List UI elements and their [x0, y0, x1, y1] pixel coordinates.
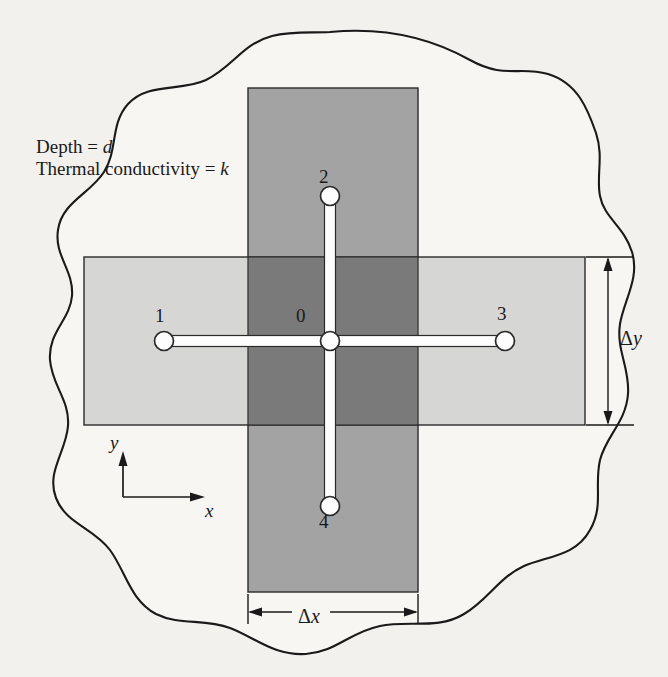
connector-bar-0-3 — [330, 336, 505, 347]
figure-canvas: Depth = d Thermal conductivity = k 1 0 3… — [0, 0, 668, 677]
delta-y-symbol: Δ — [620, 327, 633, 349]
node-2-label: 2 — [319, 166, 329, 188]
material-properties-legend: Depth = d Thermal conductivity = k — [36, 136, 229, 181]
node-1-marker[interactable] — [155, 332, 174, 351]
node-2-marker[interactable] — [321, 187, 340, 206]
node-1-label: 1 — [155, 305, 165, 327]
axis-y-label: y — [110, 432, 118, 454]
delta-x-symbol: Δ — [298, 605, 311, 627]
depth-line: Depth = d — [36, 136, 229, 158]
conductivity-label: Thermal conductivity = — [36, 158, 220, 179]
delta-x-label: Δx — [298, 605, 320, 629]
depth-symbol: d — [103, 136, 113, 157]
node-3-label: 3 — [497, 303, 507, 325]
delta-y-variable: y — [633, 327, 642, 349]
node-4-label: 4 — [319, 511, 329, 533]
connector-bar-0-4 — [325, 341, 336, 506]
connector-bar-0-2 — [325, 196, 336, 341]
node-3-marker[interactable] — [496, 332, 515, 351]
delta-x-variable: x — [311, 605, 320, 627]
node-0-label: 0 — [296, 305, 306, 327]
conductivity-line: Thermal conductivity = k — [36, 158, 229, 180]
connector-bar-0-1 — [164, 336, 330, 347]
depth-label: Depth = — [36, 136, 103, 157]
diagram-svg — [0, 0, 668, 677]
node-0-marker[interactable] — [321, 332, 340, 351]
delta-y-label: Δy — [620, 327, 642, 351]
axis-x-label: x — [205, 500, 213, 522]
conductivity-symbol: k — [220, 158, 228, 179]
